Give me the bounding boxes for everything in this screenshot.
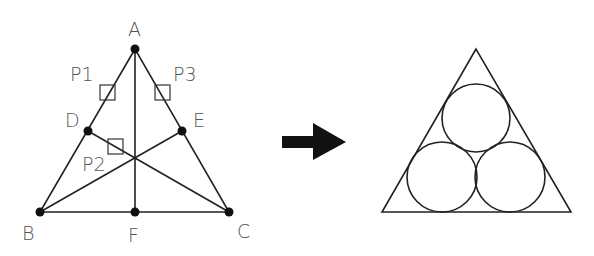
label-b: B <box>22 222 34 244</box>
point-b[interactable] <box>36 208 45 217</box>
label-p2: P2 <box>82 153 106 175</box>
label-e: E <box>193 109 205 131</box>
median-eb <box>40 131 182 212</box>
label-p1: P1 <box>70 63 94 85</box>
label-f: F <box>128 224 139 246</box>
median-dc <box>88 131 229 212</box>
point-e[interactable] <box>178 127 187 136</box>
label-p3: P3 <box>173 63 197 85</box>
label-c: C <box>237 220 250 242</box>
diagram-canvas: A B C D E F P1 P2 P3 <box>0 0 594 256</box>
point-c[interactable] <box>225 208 234 217</box>
label-d: D <box>65 109 80 131</box>
bottom-left-circle <box>407 142 477 212</box>
point-f[interactable] <box>131 208 140 217</box>
label-a: A <box>128 18 141 40</box>
bottom-right-circle <box>475 142 545 212</box>
right-circles-figure <box>382 49 571 212</box>
point-d[interactable] <box>84 127 93 136</box>
left-triangle-figure: A B C D E F P1 P2 P3 <box>22 18 250 246</box>
point-a[interactable] <box>131 45 140 54</box>
right-arrow-icon <box>282 123 346 160</box>
top-circle <box>442 84 510 152</box>
